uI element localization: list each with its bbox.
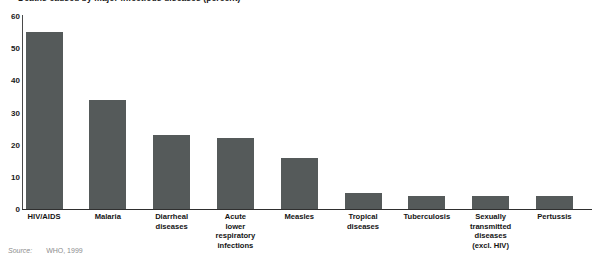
x-axis-label-line: transmitted	[452, 222, 530, 232]
x-axis-line	[22, 209, 592, 210]
bar	[345, 193, 382, 209]
source-note: Source:WHO, 1999	[8, 247, 83, 254]
source-text: WHO, 1999	[46, 247, 83, 254]
bar	[536, 196, 573, 209]
bars-layer	[0, 0, 594, 209]
x-axis-label-line: diseases	[324, 222, 402, 232]
x-axis-label-line: Pertussis	[515, 212, 593, 222]
x-axis-label-line: diseases	[452, 231, 530, 241]
chart-figure: Deaths caused by major infectious diseas…	[0, 0, 594, 256]
bar	[217, 138, 254, 209]
x-axis-label-line: respiratory	[196, 231, 274, 241]
plot-area: 0102030405060	[0, 0, 594, 214]
bar	[281, 158, 318, 209]
x-axis-label-line: lower	[196, 222, 274, 232]
bar	[26, 32, 63, 209]
bar	[408, 196, 445, 209]
x-axis-label-line: (excl. HIV)	[452, 241, 530, 251]
source-label: Source:	[8, 247, 32, 254]
x-axis-label-line: infections	[196, 241, 274, 251]
x-axis-category-labels: HIV/AIDSMalariaDiarrhealdiseasesAcutelow…	[0, 212, 594, 254]
x-axis-label: Pertussis	[515, 212, 593, 222]
bar	[472, 196, 509, 209]
bar	[153, 135, 190, 209]
bar	[89, 100, 126, 209]
